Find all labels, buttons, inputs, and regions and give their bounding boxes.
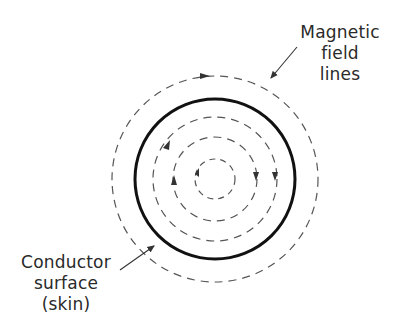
direction-arrow-icon bbox=[171, 175, 177, 185]
field-lines-label: Magnetic field lines bbox=[292, 22, 388, 85]
conductor-surface bbox=[135, 99, 295, 259]
direction-arrow-icon bbox=[200, 73, 210, 79]
outer-field-line bbox=[112, 76, 318, 282]
label-line: surface bbox=[14, 273, 118, 294]
direction-arrow-icon bbox=[163, 140, 170, 150]
direction-arrow-icon bbox=[253, 172, 259, 181]
inner-field-line-3 bbox=[195, 159, 235, 199]
label-line: Magnetic bbox=[292, 22, 388, 43]
label-line: Conductor bbox=[14, 252, 118, 273]
inner-field-line-2 bbox=[173, 137, 257, 221]
conductor-surface-label: Conductor surface (skin) bbox=[14, 252, 118, 315]
label-line: field bbox=[292, 43, 388, 64]
conductor-label-leader-arrow bbox=[120, 246, 154, 270]
label-line: lines bbox=[292, 64, 388, 85]
label-line: (skin) bbox=[14, 294, 118, 315]
inner-field-line-1 bbox=[153, 117, 277, 241]
